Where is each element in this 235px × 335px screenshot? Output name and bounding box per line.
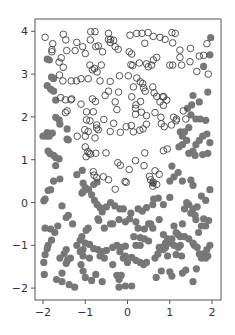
data-point-filled: [71, 284, 78, 291]
data-point-filled: [69, 220, 76, 227]
data-point-filled: [115, 284, 122, 291]
data-point-filled: [135, 225, 142, 232]
y-tick-label: 3: [21, 68, 28, 81]
data-point-filled: [46, 56, 53, 63]
data-point-filled: [195, 229, 202, 236]
data-point-filled: [132, 218, 139, 225]
data-point-filled: [194, 203, 201, 210]
y-tick-label: 0: [21, 197, 28, 210]
data-point-filled: [206, 51, 213, 58]
data-point-filled: [50, 88, 57, 95]
data-point-filled: [196, 98, 203, 105]
data-point-filled: [58, 202, 65, 209]
data-point-filled: [188, 101, 195, 108]
x-tick-label: 2: [209, 306, 216, 319]
scatter-chart: −2−1012 −2−101234: [0, 0, 235, 335]
data-point-filled: [58, 278, 65, 285]
data-point-filled: [45, 187, 52, 194]
data-point-filled: [153, 274, 160, 281]
data-point-filled: [42, 225, 49, 232]
x-tick-label: 1: [166, 306, 173, 319]
data-point-filled: [202, 255, 209, 262]
data-point-filled: [143, 259, 150, 266]
data-point-filled: [95, 217, 102, 224]
data-point-filled: [189, 182, 196, 189]
data-point-filled: [46, 133, 53, 140]
data-point-filled: [101, 225, 108, 232]
data-point-filled: [73, 242, 80, 249]
data-point-filled: [56, 155, 63, 162]
data-point-filled: [194, 244, 201, 251]
data-point-filled: [185, 150, 192, 157]
data-point-filled: [77, 261, 84, 268]
data-point-filled: [96, 252, 103, 259]
data-point-filled: [145, 220, 152, 227]
data-point-filled: [56, 121, 63, 128]
data-point-filled: [63, 246, 70, 253]
data-point-filled: [158, 267, 165, 274]
data-point-filled: [168, 163, 175, 170]
data-point-filled: [204, 89, 211, 96]
data-point-filled: [115, 216, 122, 223]
data-point-filled: [145, 237, 152, 244]
data-point-filled: [80, 246, 87, 253]
data-point-filled: [86, 255, 93, 262]
data-point-filled: [189, 278, 196, 285]
data-point-filled: [189, 92, 196, 99]
data-point-filled: [182, 267, 189, 274]
data-point-filled: [202, 197, 209, 204]
x-tick-label: −1: [77, 306, 93, 319]
data-point-filled: [181, 205, 188, 212]
y-tick-label: 2: [21, 111, 28, 124]
data-point-filled: [204, 150, 211, 157]
data-point-filled: [160, 231, 167, 238]
data-point-filled: [179, 178, 186, 185]
data-point-filled: [122, 282, 129, 289]
data-point-filled: [143, 204, 150, 211]
data-point-filled: [206, 186, 213, 193]
data-point-filled: [40, 259, 47, 266]
data-point-filled: [58, 270, 65, 277]
data-point-filled: [164, 252, 171, 259]
data-point-filled: [198, 222, 205, 229]
data-point-filled: [99, 278, 106, 285]
x-tick-label: 0: [124, 306, 131, 319]
data-point-filled: [156, 244, 163, 251]
data-point-filled: [185, 124, 192, 131]
data-point-filled: [206, 139, 213, 146]
data-point-filled: [88, 277, 95, 284]
data-point-filled: [137, 242, 144, 249]
data-point-filled: [92, 271, 99, 278]
data-point-filled: [183, 199, 190, 206]
data-point-filled: [192, 212, 199, 219]
data-point-filled: [166, 194, 173, 201]
data-point-filled: [156, 216, 163, 223]
data-point-filled: [173, 251, 180, 258]
data-point-filled: [82, 274, 89, 281]
data-point-filled: [120, 205, 127, 212]
data-point-filled: [83, 227, 90, 234]
data-point-filled: [56, 175, 63, 182]
data-point-filled: [64, 136, 71, 143]
data-point-filled: [166, 178, 173, 185]
data-point-filled: [175, 169, 182, 176]
data-point-filled: [42, 251, 49, 258]
data-point-filled: [48, 237, 55, 244]
data-point-filled: [54, 222, 61, 229]
y-tick-label: 4: [21, 25, 28, 38]
data-point-filled: [67, 255, 74, 262]
data-point-filled: [203, 130, 210, 137]
data-point-filled: [103, 247, 110, 254]
data-point-filled: [193, 265, 200, 272]
data-point-filled: [79, 167, 86, 174]
data-point-filled: [155, 195, 162, 202]
data-point-filled: [205, 217, 212, 224]
y-tick-label: −1: [12, 239, 28, 252]
data-point-filled: [192, 141, 199, 148]
data-point-filled: [200, 63, 207, 70]
y-tick-label: 1: [21, 154, 28, 167]
data-point-filled: [80, 267, 87, 274]
y-tick-label: −2: [12, 282, 28, 295]
data-point-filled: [170, 222, 177, 229]
data-point-filled: [107, 220, 114, 227]
